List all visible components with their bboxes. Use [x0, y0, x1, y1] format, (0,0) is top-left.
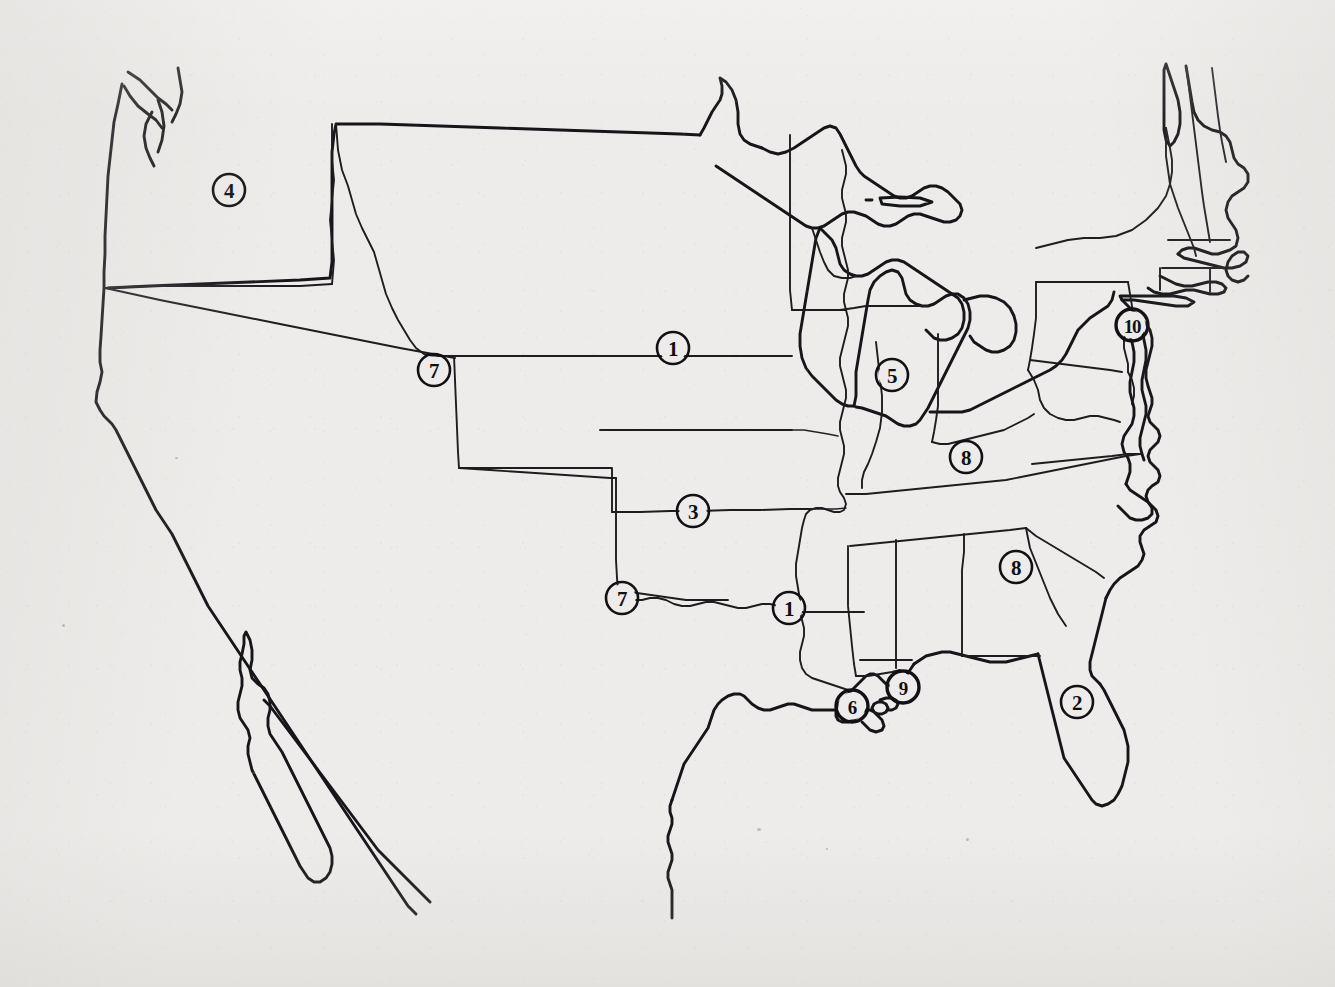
lake-huron-shore: [964, 296, 1016, 352]
indiana-ohio-border: [932, 334, 938, 442]
kentucky-tennessee-border: [846, 454, 1140, 494]
national-outline-group: [96, 64, 1248, 918]
mississippi-river-upper: [796, 150, 848, 612]
marker-9-mobile-bay[interactable]: 9: [883, 667, 923, 707]
colorado-kansas-border: [459, 468, 612, 512]
new-york-north-border: [1036, 128, 1172, 248]
gulf-coast-florida-panhandle: [914, 652, 1038, 664]
louisiana-texas-gulf-coast: [672, 694, 836, 800]
us-canada-border-west: [108, 124, 700, 288]
numbered-markers-layer: 47158103718692: [209, 170, 1152, 726]
marker-hit-area[interactable]: [946, 437, 986, 477]
wisconsin-michigan-border: [812, 228, 856, 278]
ohio-kentucky-river-border: [932, 414, 1034, 444]
marker-hit-area[interactable]: [653, 328, 693, 368]
state-boundaries-group: [105, 66, 1230, 690]
map-page: 47158103718692: [0, 0, 1335, 987]
delmarva-peninsula: [1140, 330, 1146, 460]
marker-hit-area[interactable]: [414, 350, 454, 390]
gulf-of-california: [264, 700, 430, 902]
marker-hit-area[interactable]: [673, 491, 713, 531]
ohio-pennsylvania-border: [1028, 282, 1036, 370]
mississippi-river-border: [800, 612, 848, 690]
rio-grande-border: [668, 800, 672, 918]
pennsylvania-maryland-border: [1030, 360, 1122, 372]
marker-7-texas-panhandle[interactable]: 7: [602, 578, 642, 618]
marker-hit-area[interactable]: [1112, 305, 1152, 345]
west-virginia-border: [1028, 370, 1120, 422]
mississippi-louisiana-border: [848, 546, 856, 676]
chesapeake-bay: [1122, 332, 1134, 484]
tennessee-south-border: [850, 528, 1026, 546]
marker-hit-area[interactable]: [872, 355, 912, 395]
marker-hit-area[interactable]: [1057, 682, 1097, 722]
vermont-new-hampshire-border: [1186, 66, 1210, 242]
puget-sound-coast: [124, 68, 182, 166]
southeast-atlantic-coast: [1090, 598, 1106, 684]
cape-cod-coast: [1178, 252, 1248, 282]
marker-hit-area[interactable]: [602, 578, 642, 618]
oregon-california-border: [105, 288, 455, 358]
marker-hit-area[interactable]: [883, 667, 923, 707]
baja-california-peninsula: [238, 632, 332, 882]
wyoming-colorado-west-border: [454, 356, 459, 468]
north-south-carolina-border: [1026, 528, 1104, 578]
marker-8-kentucky[interactable]: 8: [946, 437, 986, 477]
marker-2-florida[interactable]: 2: [1057, 682, 1097, 722]
georgia-alabama-border: [962, 534, 964, 656]
florida-peninsula: [1038, 654, 1128, 806]
marker-4-pacific-northwest[interactable]: 4: [209, 170, 249, 210]
new-mexico-texas-border: [616, 478, 618, 590]
lake-superior-shore: [716, 126, 962, 228]
marker-10-philadelphia[interactable]: 10: [1112, 305, 1152, 345]
pacific-coast-line: [96, 84, 416, 914]
marker-1-arkansas-mississippi[interactable]: 1: [769, 588, 809, 628]
marker-8-georgia[interactable]: 8: [996, 547, 1036, 587]
lake-michigan-west-shore: [800, 228, 854, 406]
minnesota-northern-border: [700, 78, 762, 148]
marker-hit-area[interactable]: [769, 588, 809, 628]
marker-6-new-orleans[interactable]: 6: [832, 686, 872, 726]
iowa-missouri-border: [792, 430, 838, 436]
illinois-wisconsin-border: [812, 306, 866, 310]
marker-hit-area[interactable]: [209, 170, 249, 210]
marker-hit-area[interactable]: [832, 686, 872, 726]
dakotas-minnesota-border: [790, 135, 792, 310]
marker-3-kansas-oklahoma[interactable]: 3: [673, 491, 713, 531]
us-outline-map: 47158103718692: [0, 0, 1335, 987]
idaho-montana-border: [336, 124, 454, 356]
isle-royale: [880, 197, 932, 206]
colorado-new-mexico-border: [459, 468, 616, 478]
michigan-lower-peninsula: [854, 270, 970, 426]
marker-7-montana-wyoming[interactable]: 7: [414, 350, 454, 390]
marker-hit-area[interactable]: [996, 547, 1036, 587]
marker-5-illinois-indiana[interactable]: 5: [872, 355, 912, 395]
marker-1-great-plains[interactable]: 1: [653, 328, 693, 368]
maine-coast: [1178, 66, 1248, 254]
new-hampshire-maine-border: [1212, 68, 1226, 162]
